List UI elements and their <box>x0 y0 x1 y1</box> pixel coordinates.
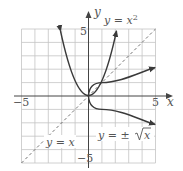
curve-sqrt-positive <box>89 68 156 97</box>
axes <box>14 11 173 168</box>
svg-text:x: x <box>144 129 151 142</box>
curve-sqrt-negative <box>89 96 156 125</box>
y-axis-arrow-icon <box>86 11 92 18</box>
y-min-tick: −5 <box>77 152 93 165</box>
y-axis-label: y <box>93 5 101 19</box>
svg-text:y = x2: y = x2 <box>103 13 138 27</box>
label-parabola: y = x2 <box>102 13 148 27</box>
x-axis-label: x <box>167 95 174 109</box>
svg-text:y = x: y = x <box>45 136 75 149</box>
y-max-tick: 5 <box>80 25 87 38</box>
label-sqrt: y = ± x <box>96 127 154 142</box>
x-min-tick: −5 <box>13 96 29 109</box>
label-identity: y = x <box>44 135 76 149</box>
function-graph: −5 5 5 −5 x y y = x2 y = ± x y = x <box>0 0 183 171</box>
x-max-tick: 5 <box>152 96 159 109</box>
svg-text:y = ±: y = ± <box>97 129 130 142</box>
